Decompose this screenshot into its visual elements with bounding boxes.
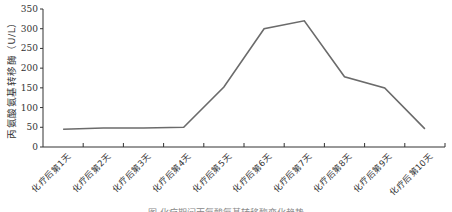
- y-axis-label: 丙氨酸氨基转移酶（U/L）: [6, 17, 17, 139]
- x-tick-label: 化疗后第2天: [70, 151, 113, 194]
- x-tick-label: 化疗后第3天: [110, 151, 153, 194]
- y-axis: 050100150200250300350: [21, 4, 43, 152]
- y-tick-label: 150: [21, 83, 38, 93]
- data-series: [63, 21, 425, 129]
- x-tick-label: 化疗后第6天: [231, 151, 274, 194]
- x-axis: 化疗后第1天化疗后第2天化疗后第3天化疗后第4天化疗后第5天化疗后第6天化疗后第…: [30, 143, 445, 198]
- x-tick-label: 化疗后第5天: [191, 151, 234, 194]
- x-tick-label: 化疗后第10天: [388, 151, 435, 198]
- figure-caption: 图 化疗期间丙氨酸氨基转移酶变化趋势: [148, 207, 304, 212]
- x-tick-label: 化疗后第7天: [271, 151, 314, 194]
- x-tick-label: 化疗后第9天: [351, 151, 394, 194]
- y-tick-label: 300: [21, 24, 38, 34]
- y-tick-label: 200: [21, 63, 38, 73]
- x-tick-label: 化疗后第1天: [30, 151, 73, 194]
- y-tick-label: 100: [21, 103, 38, 113]
- y-tick-label: 0: [32, 142, 38, 152]
- y-tick-label: 50: [27, 122, 39, 132]
- line-chart: 050100150200250300350 化疗后第1天化疗后第2天化疗后第3天…: [0, 0, 452, 212]
- x-tick-label: 化疗后第4天: [150, 151, 193, 194]
- y-tick-label: 350: [21, 4, 38, 14]
- series-line: [63, 21, 425, 129]
- y-tick-label: 250: [21, 43, 38, 53]
- x-tick-label: 化疗后第8天: [311, 151, 354, 194]
